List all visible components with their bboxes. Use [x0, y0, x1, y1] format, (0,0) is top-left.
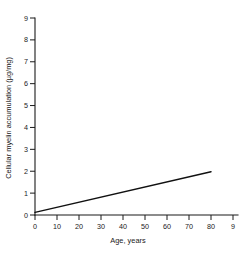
- x-tick-label: 60: [163, 222, 171, 231]
- regression-line: [35, 172, 211, 213]
- x-tick-label: 80: [207, 222, 215, 231]
- y-tick-label: 7: [24, 57, 28, 66]
- regression-line-group: [35, 172, 211, 213]
- y-tick-label: 9: [24, 14, 28, 23]
- y-tick-label: 2: [24, 167, 28, 176]
- x-tick-label: 0: [33, 222, 37, 231]
- figure-container: 0123456789 010203040506070809 Age, years…: [0, 0, 242, 255]
- y-tick-label: 3: [24, 145, 28, 154]
- x-tick-label: 10: [53, 222, 61, 231]
- y-tick-label: 8: [24, 35, 28, 44]
- y-axis-title: Cellular myelin accumulation (µg/mg): [4, 57, 13, 179]
- y-tick-label: 4: [24, 123, 28, 132]
- x-tick-label: 30: [97, 222, 105, 231]
- y-tick-label: 0: [24, 211, 28, 220]
- x-tick-label: 70: [185, 222, 193, 231]
- scatter-plot: 0123456789 010203040506070809 Age, years…: [0, 0, 242, 255]
- y-tick-label: 1: [24, 189, 28, 198]
- y-axis-ticks: 0123456789: [24, 14, 35, 220]
- x-axis-title: Age, years: [110, 236, 146, 245]
- x-tick-label: 20: [75, 222, 83, 231]
- plot-axes: [35, 18, 238, 215]
- x-tick-label: 50: [141, 222, 149, 231]
- x-tick-label: 40: [119, 222, 127, 231]
- x-tick-label: 9: [231, 222, 235, 231]
- x-axis-ticks: 010203040506070809: [33, 215, 235, 231]
- y-tick-label: 6: [24, 79, 28, 88]
- y-tick-label: 5: [24, 101, 28, 110]
